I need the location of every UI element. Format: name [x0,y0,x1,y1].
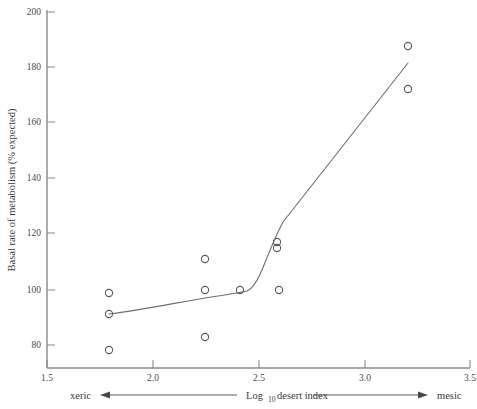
y-tick-label: 200 [27,7,42,17]
y-axis-ticks [47,12,55,345]
data-point [404,85,411,92]
x-axis-tick-labels: 1.5 2.0 2.5 3.0 3.5 [41,373,476,383]
y-tick-label: 80 [32,340,42,350]
data-point [201,333,208,340]
x-axis-title-subscript: 10 [268,395,276,404]
xeric-label: xeric [70,390,91,401]
x-tick-label: 3.0 [359,373,371,383]
y-tick-label: 140 [27,173,42,183]
data-point [105,346,112,353]
right-arrow-icon [418,392,428,399]
y-tick-label: 100 [27,285,42,295]
x-axis-caption-band: xeric Log 10 desert index mesic [70,390,462,404]
chart-canvas: 200 180 160 140 120 100 80 1.5 2.0 2.5 3… [0,0,477,409]
y-tick-label: 180 [27,62,42,72]
x-tick-label: 2.0 [147,373,159,383]
x-tick-label: 2.5 [253,373,265,383]
data-point [275,286,282,293]
data-point [404,42,411,49]
x-axis-title-rest: desert index [277,390,329,401]
data-point [105,289,112,296]
x-axis-ticks [47,360,470,368]
y-tick-label: 160 [27,117,42,127]
fitted-curve [109,63,408,314]
mesic-label: mesic [437,390,462,401]
y-tick-label: 120 [27,228,42,238]
x-tick-label: 3.5 [464,373,476,383]
y-axis-tick-labels: 200 180 160 140 120 100 80 [27,7,42,350]
x-tick-label: 1.5 [41,373,53,383]
data-point [201,255,208,262]
data-point [201,286,208,293]
figure-container: 200 180 160 140 120 100 80 1.5 2.0 2.5 3… [0,0,477,409]
left-arrow-icon [100,392,110,399]
x-axis-title-main: Log [246,390,264,401]
y-axis-title: Basal rate of metabolism (% expected) [6,108,18,271]
